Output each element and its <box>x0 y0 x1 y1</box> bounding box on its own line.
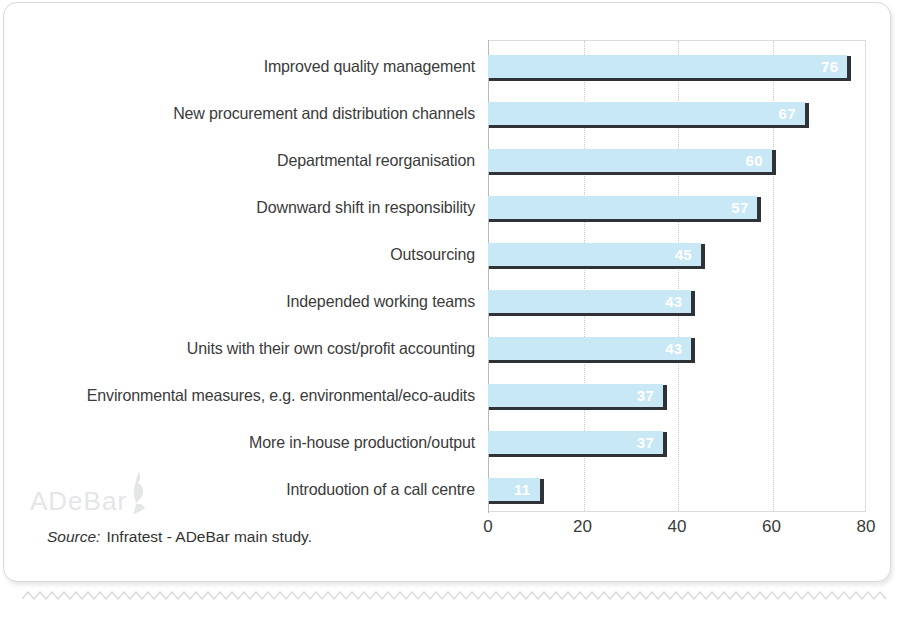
bar: 60 <box>488 149 772 172</box>
category-label: Environmental measures, e.g. environment… <box>34 384 475 407</box>
bar-row: Units with their own cost/profit account… <box>0 337 910 384</box>
category-label: Departmental reorganisation <box>34 149 475 172</box>
bar-value-label: 57 <box>731 198 748 217</box>
bar-shadow-right <box>663 385 667 410</box>
category-label: Independed working teams <box>34 290 475 313</box>
bar-shadow-bottom <box>489 266 702 269</box>
bar-shadow-bottom <box>489 172 773 175</box>
bar-shadow-bottom <box>489 360 692 363</box>
decorative-sawtooth-edge <box>22 588 890 602</box>
bar-shadow-bottom <box>489 407 664 410</box>
bar-shadow-right <box>757 197 761 222</box>
bar: 43 <box>488 337 691 360</box>
bar-shadow-bottom <box>489 219 758 222</box>
bar: 43 <box>488 290 691 313</box>
bar-row: Outsourcing45 <box>0 243 910 290</box>
source-value: Infratest - ADeBar main study. <box>106 528 312 545</box>
bar: 76 <box>488 55 847 78</box>
bar-fill <box>488 290 691 313</box>
bar-shadow-bottom <box>489 313 692 316</box>
category-label: Improved quality management <box>34 55 475 78</box>
bar-value-label: 43 <box>665 292 682 311</box>
category-label: More in-house production/output <box>34 431 475 454</box>
bar-value-label: 76 <box>821 57 838 76</box>
bar-shadow-bottom <box>489 78 848 81</box>
bar: 37 <box>488 431 663 454</box>
bar-value-label: 60 <box>746 151 763 170</box>
bar-shadow-bottom <box>489 454 664 457</box>
bar-row: Departmental reorganisation60 <box>0 149 910 196</box>
bar: 11 <box>488 478 540 501</box>
category-label: New procurement and distribution channel… <box>34 102 475 125</box>
bar-shadow-right <box>663 432 667 457</box>
bar-row: More in-house production/output37 <box>0 431 910 478</box>
category-label: Units with their own cost/profit account… <box>34 337 475 360</box>
bar-fill <box>488 243 701 266</box>
bar-value-label: 45 <box>675 245 692 264</box>
bar-shadow-bottom <box>489 125 806 128</box>
bar-shadow-right <box>805 103 809 128</box>
category-label: Downward shift in responsibility <box>34 196 475 219</box>
bar-fill <box>488 196 757 219</box>
bar-row: Downward shift in responsibility57 <box>0 196 910 243</box>
source-label: Source: <box>47 528 100 545</box>
bar-value-label: 37 <box>637 433 654 452</box>
bar-row: Independed working teams43 <box>0 290 910 337</box>
x-tick-label: 40 <box>668 516 687 538</box>
bar: 67 <box>488 102 805 125</box>
bar: 57 <box>488 196 757 219</box>
x-tick-label: 20 <box>573 516 592 538</box>
bar-shadow-right <box>847 56 851 81</box>
bar-shadow-right <box>701 244 705 269</box>
x-tick-label: 80 <box>857 516 876 538</box>
bar-row: Environmental measures, e.g. environment… <box>0 384 910 431</box>
x-tick-label: 60 <box>762 516 781 538</box>
bar-value-label: 37 <box>637 386 654 405</box>
bar-row: Improved quality management76 <box>0 55 910 102</box>
bar-shadow-right <box>691 338 695 363</box>
category-label: Introduotion of a call centre <box>34 478 475 501</box>
category-label: Outsourcing <box>34 243 475 266</box>
bar-shadow-right <box>540 479 544 504</box>
bar: 45 <box>488 243 701 266</box>
x-tick-label: 0 <box>483 516 492 538</box>
source-note: Source:Infratest - ADeBar main study. <box>47 526 312 548</box>
bar-shadow-right <box>772 150 776 175</box>
bar-fill <box>488 55 847 78</box>
bar-value-label: 11 <box>514 480 530 499</box>
bar-fill <box>488 149 772 172</box>
bar-shadow-bottom <box>489 501 541 504</box>
bar-value-label: 67 <box>779 104 796 123</box>
bar-row: New procurement and distribution channel… <box>0 102 910 149</box>
bar-fill <box>488 102 805 125</box>
bar-value-label: 43 <box>665 339 682 358</box>
bar-fill <box>488 337 691 360</box>
bar-shadow-right <box>691 291 695 316</box>
bar: 37 <box>488 384 663 407</box>
